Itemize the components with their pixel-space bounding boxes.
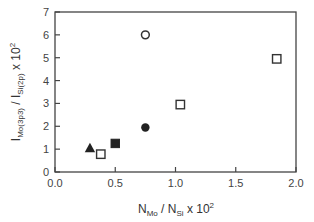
y-tick-label: 7 — [43, 6, 49, 18]
data-point-open-square — [273, 55, 281, 63]
x-tick-label: 1.5 — [228, 177, 243, 189]
data-markers — [85, 31, 281, 158]
y-tick-label: 5 — [43, 52, 49, 64]
x-axis-ticks: 0.00.51.01.52.0 — [47, 167, 303, 189]
x-tick-label: 2.0 — [288, 177, 303, 189]
y-axis-title: IMo(3p3) / ISi(2p) x 102 — [8, 42, 25, 141]
x-tick-label: 0.0 — [47, 177, 62, 189]
x-tick-label: 0.5 — [108, 177, 123, 189]
y-tick-label: 3 — [43, 97, 49, 109]
y-tick-label: 6 — [43, 29, 49, 41]
x-axis-title: NMo / NSi x 102 — [138, 201, 215, 218]
data-point-open-circle — [141, 31, 149, 39]
y-axis-ticks: 01234567 — [43, 6, 60, 178]
data-point-filled-triangle — [85, 143, 95, 152]
y-tick-label: 2 — [43, 120, 49, 132]
y-tick-label: 4 — [43, 75, 49, 87]
y-tick-label: 1 — [43, 143, 49, 155]
scatter-chart: 0.00.51.01.52.0 01234567 NMo / NSi x 102… — [0, 0, 314, 222]
x-tick-label: 1.0 — [168, 177, 183, 189]
data-point-filled-square — [111, 139, 119, 147]
y-tick-label: 0 — [43, 166, 49, 178]
data-point-open-square — [176, 100, 184, 108]
data-point-open-square — [97, 150, 105, 158]
data-point-filled-circle — [141, 123, 149, 131]
